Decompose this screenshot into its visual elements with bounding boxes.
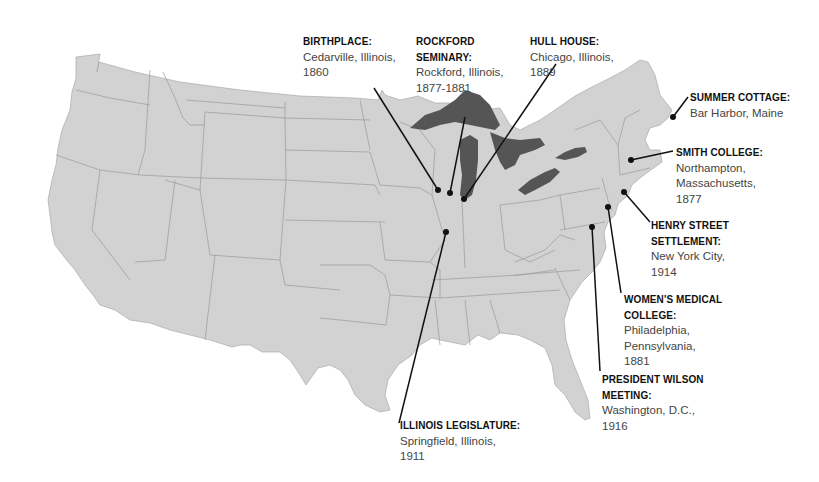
label-title: SUMMER COTTAGE: <box>690 90 790 106</box>
label-title: HENRY STREET <box>651 218 729 234</box>
label-year: 1911 <box>400 449 520 465</box>
leader-line-womens-medical <box>608 207 621 293</box>
label-year: 1881 <box>624 354 722 370</box>
marker-legislature <box>443 229 449 235</box>
label-title: BIRTHPLACE: <box>303 34 396 50</box>
label-year: 1860 <box>303 65 396 81</box>
label-title: HULL HOUSE: <box>530 34 614 50</box>
label-state: Massachusetts, <box>676 176 763 192</box>
leader-line-summer-cottage <box>673 97 688 117</box>
label-title: SETTLEMENT: <box>651 234 729 250</box>
label-illinois-legislature: ILLINOIS LEGISLATURE: Springfield, Illin… <box>400 418 520 465</box>
label-place: Chicago, Illinois, <box>530 50 614 66</box>
label-place: Springfield, Illinois, <box>400 434 520 450</box>
label-title: SEMINARY: <box>416 50 504 66</box>
label-year: 1914 <box>651 265 729 281</box>
label-smith-college: SMITH COLLEGE: Northampton, Massachusett… <box>676 145 763 207</box>
label-place: Cedarville, Illinois, <box>303 50 396 66</box>
label-year: 1916 <box>602 419 704 435</box>
label-place: Rockford, Illinois, <box>416 65 504 81</box>
label-title: WOMEN'S MEDICAL <box>624 292 722 308</box>
label-title: MEETING: <box>602 388 704 404</box>
label-place: Philadelphia, <box>624 323 722 339</box>
marker-womens-medical <box>605 204 611 210</box>
label-place: Northampton, <box>676 161 763 177</box>
us-landmass <box>48 54 672 420</box>
marker-wilson <box>589 224 595 230</box>
label-year: 1877-1881 <box>416 81 504 97</box>
label-title: ROCKFORD <box>416 34 504 50</box>
marker-hull-house <box>461 196 467 202</box>
label-place: Washington, D.C., <box>602 403 704 419</box>
marker-henry-street <box>621 189 627 195</box>
label-summer-cottage: SUMMER COTTAGE: Bar Harbor, Maine <box>690 90 790 121</box>
marker-birthplace <box>435 187 441 193</box>
label-president-wilson-meeting: PRESIDENT WILSON MEETING: Washington, D.… <box>602 372 704 434</box>
label-title: PRESIDENT WILSON <box>602 372 704 388</box>
label-year: 1877 <box>676 192 763 208</box>
label-rockford-seminary: ROCKFORD SEMINARY: Rockford, Illinois, 1… <box>416 34 504 96</box>
label-womens-medical-college: WOMEN'S MEDICAL COLLEGE: Philadelphia, P… <box>624 292 722 370</box>
marker-summer-cottage <box>670 114 676 120</box>
label-title: ILLINOIS LEGISLATURE: <box>400 418 520 434</box>
label-place: New York City, <box>651 249 729 265</box>
label-henry-street-settlement: HENRY STREET SETTLEMENT: New York City, … <box>651 218 729 280</box>
label-state: Pennsylvania, <box>624 339 722 355</box>
marker-smith-college <box>628 157 634 163</box>
label-title: COLLEGE: <box>624 308 722 324</box>
label-title: SMITH COLLEGE: <box>676 145 763 161</box>
marker-rockford <box>447 190 453 196</box>
leader-line-henry-street <box>624 192 650 222</box>
label-birthplace: BIRTHPLACE: Cedarville, Illinois, 1860 <box>303 34 396 81</box>
label-place: Bar Harbor, Maine <box>690 106 790 122</box>
label-year: 1889 <box>530 65 614 81</box>
label-hull-house: HULL HOUSE: Chicago, Illinois, 1889 <box>530 34 614 81</box>
